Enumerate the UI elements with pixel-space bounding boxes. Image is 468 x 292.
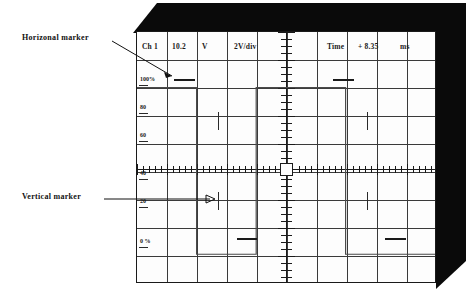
callout-leader-lines [0, 0, 468, 292]
oscilloscope-figure: Ch 1 10.2 V 2V/div Time + 8.35 ms 100%80… [0, 0, 468, 292]
